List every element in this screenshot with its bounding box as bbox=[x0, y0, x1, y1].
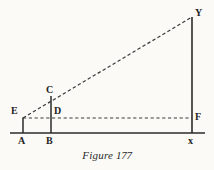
vertex-label-Y: Y bbox=[195, 8, 202, 18]
figure-caption: Figure177 bbox=[0, 149, 214, 161]
vertex-label-A: A bbox=[18, 136, 25, 146]
segment-EY-dashed bbox=[23, 17, 192, 118]
vertex-label-E: E bbox=[11, 106, 18, 116]
vertex-label-X: x bbox=[188, 136, 193, 146]
geometry-diagram bbox=[0, 0, 214, 170]
vertex-label-D: D bbox=[54, 106, 61, 116]
vertex-label-C: C bbox=[46, 85, 53, 95]
caption-prefix: Figure bbox=[82, 149, 113, 161]
vertex-label-B: B bbox=[46, 136, 53, 146]
caption-number: 177 bbox=[113, 149, 132, 161]
vertex-label-F: F bbox=[195, 112, 201, 122]
figure-page: E A C D B Y F x Figure177 bbox=[0, 0, 214, 170]
